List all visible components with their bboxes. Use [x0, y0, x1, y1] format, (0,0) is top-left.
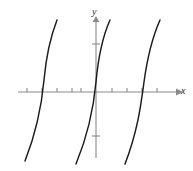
- coordinate-plot: [0, 0, 193, 171]
- x-axis-label: x: [181, 86, 185, 96]
- x-axis-ticks: [27, 88, 157, 92]
- graph-figure: y x: [0, 0, 193, 171]
- y-axis-label: y: [92, 7, 96, 17]
- curve-branch-left: [25, 20, 57, 161]
